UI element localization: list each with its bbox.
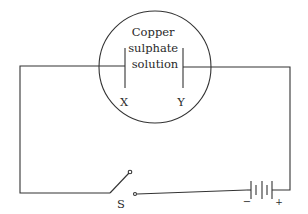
wire-right [183, 67, 290, 190]
switch-pivot-icon [128, 170, 132, 174]
battery-positive-label: + [275, 197, 283, 207]
vessel-label-line-2: sulphate [128, 41, 178, 55]
switch-label: S [117, 197, 125, 211]
wire-left [20, 66, 125, 193]
wire-bottom [137, 190, 247, 194]
svg-text:Copper sulphate soluti: Copper sulphate solution [128, 25, 182, 71]
switch-contact-icon [134, 193, 137, 196]
vessel-label-line-1: Copper [132, 25, 175, 39]
electrode-y-label: Y [176, 95, 185, 109]
vessel-label-line-3: solution [132, 57, 179, 71]
electrode-x-label: X [120, 95, 129, 109]
battery-negative-label: − [243, 196, 251, 207]
circuit-diagram: Copper sulphate solution X Y S − + [0, 0, 308, 214]
switch-lever[interactable] [110, 173, 129, 193]
